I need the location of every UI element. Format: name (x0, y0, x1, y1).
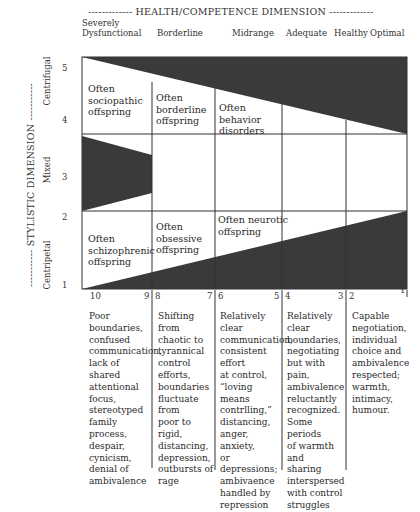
desc-line: contrlling,” (220, 405, 282, 417)
cell-line: offspring (218, 226, 288, 238)
desc-line: individual (352, 335, 412, 347)
desc-line: respected; (352, 370, 412, 382)
desc-line: Relatively (287, 311, 347, 323)
desc-line: negotiation, (352, 323, 412, 335)
desc-line: Relatively clear (220, 311, 282, 335)
description-adequate: Relatively clear boundaries, negotiating… (287, 311, 347, 512)
desc-line: despair, (89, 441, 151, 453)
desc-line: boundaries, (89, 323, 151, 335)
desc-line: with control (287, 488, 347, 500)
desc-line: depression, (158, 453, 216, 465)
cell-line: offspring (88, 106, 143, 118)
desc-line: consistent effort (220, 346, 282, 370)
cell-sociopathic: Often sociopathic offspring (88, 83, 143, 118)
scale-5: 5 (274, 291, 279, 301)
cell-line: offspring (88, 256, 155, 268)
cell-line: Often (88, 233, 155, 245)
cell-line: borderline (156, 104, 206, 116)
desc-line: negotiating (287, 346, 347, 358)
desc-line: Poor (89, 311, 151, 323)
description-healthy-optimal: Capable negotiation, individual choice a… (352, 311, 412, 417)
desc-line: clear (287, 323, 347, 335)
cell-line: schizophrenic (88, 245, 155, 257)
cell-obsessive: Often obsessive offspring (156, 221, 202, 256)
desc-line: chaotic to (158, 335, 216, 347)
desc-line: communication, (220, 335, 282, 347)
desc-line: distancing, (220, 417, 282, 429)
desc-line: Shifting from (158, 311, 216, 335)
desc-line: ambivalence (89, 476, 151, 488)
scale-2: 2 (349, 291, 354, 301)
cell-schizophrenic: Often schizophrenic offspring (88, 233, 155, 268)
desc-line: struggles (287, 500, 347, 512)
desc-line: Capable (352, 311, 412, 323)
description-severely-dysfunctional: Poor boundaries, confused communication,… (89, 311, 151, 488)
desc-line: efforts, (158, 370, 216, 382)
cell-line: offspring (156, 244, 202, 256)
desc-line: tyrannical (158, 346, 216, 358)
desc-line: ambivalence (352, 358, 412, 370)
desc-line: ambivaence (220, 476, 282, 488)
cell-line: sociopathic (88, 95, 143, 107)
cell-neurotic: Often neurotic offspring (218, 214, 288, 237)
cell-line: behavior (219, 114, 264, 126)
cell-line: obsessive (156, 233, 202, 245)
desc-line: sharing (287, 464, 347, 476)
desc-line: rage (158, 476, 216, 488)
cell-behavior-disorders: Often behavior disorders (219, 102, 264, 137)
desc-line: reluctantly (287, 394, 347, 406)
desc-line: ambivalence (287, 382, 347, 394)
description-midrange: Relatively clear communication, consiste… (220, 311, 282, 512)
desc-line: of warmth and (287, 441, 347, 465)
scale-1: 1 (400, 285, 405, 295)
desc-line: Some periods (287, 417, 347, 441)
desc-line: boundaries (158, 382, 216, 394)
desc-line: recognized. (287, 405, 347, 417)
scale-8: 8 (155, 291, 160, 301)
desc-line: but with pain, (287, 358, 347, 382)
cell-line: Often (88, 83, 143, 95)
desc-line: cynicism, (89, 453, 151, 465)
cell-line: Often (219, 102, 264, 114)
desc-line: denial of (89, 464, 151, 476)
desc-line: interspersed (287, 476, 347, 488)
desc-line: focus, (89, 394, 151, 406)
desc-line: humour. (352, 405, 412, 417)
desc-line: poor to rigid, (158, 417, 216, 441)
desc-line: repression (220, 500, 282, 512)
scale-6: 6 (218, 291, 223, 301)
desc-line: fluctuate from (158, 394, 216, 418)
desc-line: attentional (89, 382, 151, 394)
desc-line: family process, (89, 417, 151, 441)
desc-line: lack of shared (89, 358, 151, 382)
desc-line: intimacy, (352, 394, 412, 406)
cell-borderline: Often borderline offspring (156, 92, 206, 127)
desc-line: confused (89, 335, 151, 347)
desc-line: stereotyped (89, 405, 151, 417)
desc-line: handled by (220, 488, 282, 500)
scale-10: 10 (90, 291, 101, 301)
desc-line: or depressions; (220, 453, 282, 477)
desc-line: outbursts of (158, 464, 216, 476)
scale-7: 7 (207, 291, 212, 301)
desc-line: choice and (352, 346, 412, 358)
scale-4: 4 (285, 291, 290, 301)
desc-line: control (158, 358, 216, 370)
desc-line: distancing, (158, 441, 216, 453)
desc-line: warmth, (352, 382, 412, 394)
cell-line: Often (156, 92, 206, 104)
desc-line: communication, (89, 346, 151, 358)
cell-line: Often neurotic (218, 214, 288, 226)
scale-9: 9 (144, 291, 149, 301)
desc-line: at control, (220, 370, 282, 382)
mixed-shaded-wedge (82, 136, 152, 211)
desc-line: “loving means (220, 382, 282, 406)
cell-line: offspring (156, 115, 206, 127)
cell-line: Often (156, 221, 202, 233)
cell-line: disorders (219, 125, 264, 137)
desc-line: boundaries, (287, 335, 347, 347)
scale-3: 3 (338, 291, 343, 301)
desc-line: anger, anxiety, (220, 429, 282, 453)
description-borderline: Shifting from chaotic to tyrannical cont… (158, 311, 216, 488)
